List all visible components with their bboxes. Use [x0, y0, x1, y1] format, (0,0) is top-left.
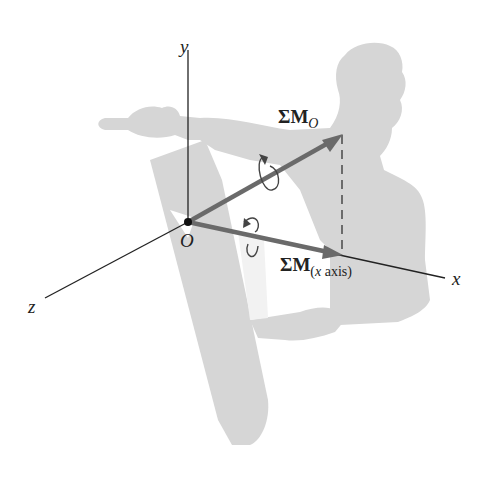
z-axis-label: z — [28, 296, 35, 318]
moment-x-axis-symbol: ΣM — [280, 254, 310, 275]
origin-point — [184, 218, 192, 226]
moment-x-axis-subscript-axis: axis — [321, 264, 347, 279]
moment-origin-subscript: O — [308, 116, 318, 131]
origin-label: O — [180, 230, 194, 252]
moment-origin-symbol: ΣM — [278, 106, 308, 127]
y-axis-label: y — [180, 36, 188, 58]
diagram-canvas — [0, 0, 490, 490]
paren-close: ) — [347, 264, 352, 279]
x-axis-label: x — [452, 268, 460, 290]
moment-origin-label: ΣMO — [278, 106, 318, 132]
moment-x-axis-label: ΣM(x axis) — [280, 254, 352, 280]
z-axis-line — [45, 222, 188, 298]
